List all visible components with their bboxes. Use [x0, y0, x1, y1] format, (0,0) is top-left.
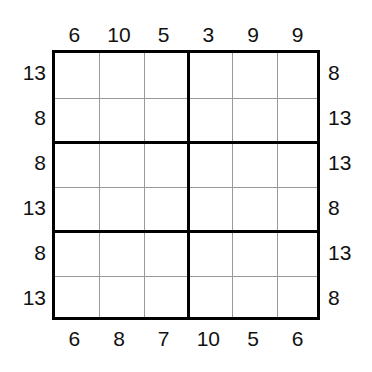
bottom-clue-col-5: 5 — [231, 328, 276, 349]
right-clue-row-3: 13 — [328, 140, 366, 185]
cell-r3c3[interactable] — [144, 142, 188, 187]
grid-inner — [55, 53, 317, 317]
block-divider-horizontal-upper — [55, 141, 317, 144]
block-divider-vertical-center — [187, 53, 190, 317]
right-clue-row-2: 13 — [328, 95, 366, 140]
cell-r3c4[interactable] — [188, 142, 232, 187]
left-clue-row-1: 13 — [8, 50, 46, 95]
cell-r3c6[interactable] — [277, 142, 321, 187]
cell-r2c1[interactable] — [55, 98, 99, 143]
cell-r6c3[interactable] — [144, 276, 188, 321]
cell-r3c5[interactable] — [232, 142, 276, 187]
cell-r6c4[interactable] — [188, 276, 232, 321]
cell-r5c2[interactable] — [99, 232, 143, 277]
cell-r1c3[interactable] — [144, 53, 188, 98]
left-clue-row-3: 8 — [8, 140, 46, 185]
right-clue-row-5: 13 — [328, 230, 366, 275]
cell-r1c6[interactable] — [277, 53, 321, 98]
top-clue-col-4: 3 — [186, 24, 231, 45]
left-clue-row-5: 8 — [8, 230, 46, 275]
cell-r5c5[interactable] — [232, 232, 276, 277]
top-clue-col-1: 6 — [52, 24, 97, 45]
cell-r4c1[interactable] — [55, 187, 99, 232]
cell-r6c1[interactable] — [55, 276, 99, 321]
cell-r3c2[interactable] — [99, 142, 143, 187]
cell-r2c5[interactable] — [232, 98, 276, 143]
puzzle-grid-container: 6 10 5 3 9 9 6 8 7 10 5 6 13 8 8 13 8 13… — [0, 0, 372, 372]
grid-line-vertical-1 — [99, 53, 100, 317]
bottom-clue-col-3: 7 — [141, 328, 186, 349]
left-clue-row-6: 13 — [8, 275, 46, 320]
cell-r1c4[interactable] — [188, 53, 232, 98]
cell-r2c2[interactable] — [99, 98, 143, 143]
block-divider-horizontal-lower — [55, 230, 317, 233]
cell-r6c5[interactable] — [232, 276, 276, 321]
cell-r4c3[interactable] — [144, 187, 188, 232]
right-clue-row-4: 8 — [328, 185, 366, 230]
right-clue-row-1: 8 — [328, 50, 366, 95]
cell-r5c6[interactable] — [277, 232, 321, 277]
cell-r2c3[interactable] — [144, 98, 188, 143]
cell-r4c5[interactable] — [232, 187, 276, 232]
cell-r2c6[interactable] — [277, 98, 321, 143]
cell-r5c3[interactable] — [144, 232, 188, 277]
bottom-clue-col-2: 8 — [97, 328, 142, 349]
cell-r6c6[interactable] — [277, 276, 321, 321]
grid-line-vertical-2 — [144, 53, 145, 317]
cell-r5c4[interactable] — [188, 232, 232, 277]
bottom-clue-col-1: 6 — [52, 328, 97, 349]
left-clue-row-4: 13 — [8, 185, 46, 230]
right-clue-row-6: 8 — [328, 275, 366, 320]
cell-r3c1[interactable] — [55, 142, 99, 187]
cell-r2c4[interactable] — [188, 98, 232, 143]
cell-r4c6[interactable] — [277, 187, 321, 232]
cell-r4c4[interactable] — [188, 187, 232, 232]
left-clue-row-2: 8 — [8, 95, 46, 140]
top-clue-col-6: 9 — [275, 24, 320, 45]
top-clue-col-5: 9 — [231, 24, 276, 45]
bottom-clue-col-4: 10 — [186, 328, 231, 349]
top-clue-col-3: 5 — [141, 24, 186, 45]
cell-r5c1[interactable] — [55, 232, 99, 277]
cell-r1c2[interactable] — [99, 53, 143, 98]
cell-r4c2[interactable] — [99, 187, 143, 232]
puzzle-grid — [52, 50, 320, 320]
cell-r1c5[interactable] — [232, 53, 276, 98]
grid-line-vertical-5 — [277, 53, 278, 317]
cell-r6c2[interactable] — [99, 276, 143, 321]
bottom-clue-col-6: 6 — [275, 328, 320, 349]
top-clue-col-2: 10 — [97, 24, 142, 45]
cell-r1c1[interactable] — [55, 53, 99, 98]
grid-line-vertical-4 — [232, 53, 233, 317]
